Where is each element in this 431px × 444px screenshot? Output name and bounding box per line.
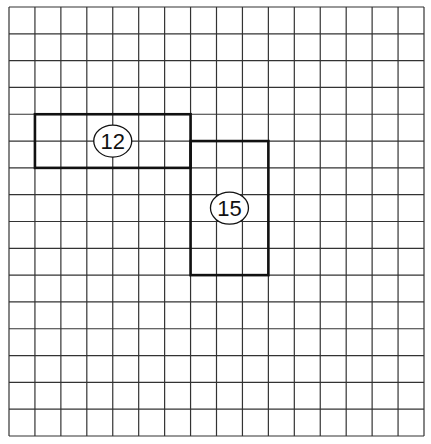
region-label: 15 (217, 196, 241, 221)
grid-diagram: 1215 (0, 0, 431, 444)
region-label: 12 (101, 129, 125, 154)
grid-lines (9, 7, 424, 436)
rect-15: 15 (191, 141, 269, 275)
